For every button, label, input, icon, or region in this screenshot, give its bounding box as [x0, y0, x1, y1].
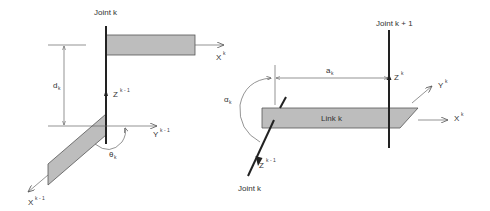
dh-parameters-diagram: Joint k X k Z k - 1 d k Y	[0, 0, 490, 211]
x-k-axis-label: X k	[216, 50, 226, 62]
svg-text:X: X	[28, 198, 34, 207]
svg-text:k: k	[114, 154, 117, 160]
svg-text:Z: Z	[113, 90, 118, 99]
svg-text:k: k	[401, 70, 404, 76]
svg-text:X: X	[216, 53, 222, 62]
ak-label: a k	[326, 66, 334, 76]
svg-text:Z: Z	[394, 73, 399, 82]
x-prev-axis-label: X k - 1	[28, 195, 45, 207]
svg-text:k: k	[331, 70, 334, 76]
y-k-axis-arrow-icon	[412, 86, 432, 103]
svg-text:k: k	[58, 85, 61, 91]
alpha-k-label: α k	[224, 95, 232, 105]
joint-k-label: Joint k	[94, 8, 118, 17]
z-prev-arrowhead-icon	[104, 89, 108, 96]
joint-k-right-label: Joint k	[238, 184, 262, 193]
left-panel-joint-parameters: Joint k X k Z k - 1 d k Y	[28, 8, 226, 207]
joint-k-plus-1-label: Joint k + 1	[376, 19, 413, 28]
svg-text:Y: Y	[153, 130, 159, 139]
z-k-axis-label: Z k	[394, 70, 404, 82]
svg-text:d: d	[53, 81, 57, 90]
y-k-axis-label: Y k	[438, 78, 448, 90]
svg-text:k: k	[223, 50, 226, 56]
svg-text:k: k	[461, 111, 464, 117]
joint-k-axis-upper-segment	[280, 97, 286, 108]
z-prev-axis-label: Z k - 1	[113, 87, 130, 99]
svg-text:k: k	[229, 99, 232, 105]
right-panel-link-parameters: Joint k + 1 Link k Z k a k Y k X k	[224, 19, 464, 193]
link-k-label: Link k	[321, 114, 343, 123]
dk-label: d k	[53, 81, 61, 91]
svg-text:Z: Z	[259, 161, 264, 170]
z-k-arrowhead-icon	[387, 74, 392, 80]
svg-text:k - 1: k - 1	[35, 195, 45, 201]
svg-text:k - 1: k - 1	[120, 87, 130, 93]
svg-text:k: k	[445, 78, 448, 84]
svg-text:k - 1: k - 1	[266, 157, 276, 163]
x-k-right-axis-label: X k	[454, 111, 464, 123]
lower-link-slab	[48, 114, 106, 185]
x-prev-axis-arrow-icon	[28, 175, 48, 192]
y-prev-axis-label: Y k - 1	[153, 127, 170, 139]
svg-text:Y: Y	[438, 81, 444, 90]
upper-link-slab	[106, 35, 195, 55]
theta-k-label: θ k	[109, 150, 117, 160]
svg-text:k - 1: k - 1	[160, 127, 170, 133]
svg-text:X: X	[454, 114, 460, 123]
